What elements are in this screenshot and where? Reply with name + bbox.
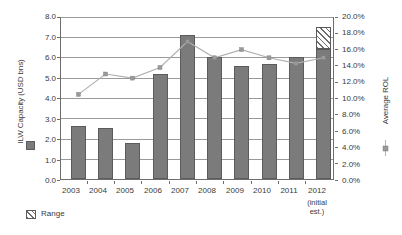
y-tick-left-7: 7.0 <box>28 33 56 42</box>
y-tick-left-8: 8.0 <box>28 12 56 21</box>
chart-container: ILW Capacity (USD bns) Average ROL 0.0 1… <box>0 0 402 235</box>
y-tick-right-4: 8.0% <box>342 110 376 119</box>
x-category-2009: 2009 <box>220 186 250 195</box>
y-tick-mark-right <box>335 163 338 164</box>
y-tick-mark-right <box>335 98 338 99</box>
x-tick-mark <box>251 181 252 184</box>
x-category-2003: 2003 <box>56 186 86 195</box>
x-tick-mark <box>114 181 115 184</box>
x-category-2012: 2012 <box>302 186 332 195</box>
x-category-2010: 2010 <box>247 186 277 195</box>
plot-area <box>60 17 334 180</box>
range-legend-swatch-icon <box>26 210 36 219</box>
x-category-2006: 2006 <box>138 186 168 195</box>
x-category-2004: 2004 <box>83 186 113 195</box>
x-category-2012-sublabel: (initialest.) <box>296 198 338 216</box>
x-category-2007: 2007 <box>165 186 195 195</box>
x-tick-mark <box>305 181 306 184</box>
x-tick-mark <box>278 181 279 184</box>
y-tick-left-1: 1.0 <box>28 156 56 165</box>
y-tick-right-0: 0.0% <box>342 176 376 185</box>
y-tick-right-8: 16.0% <box>342 45 376 54</box>
y-tick-right-6: 12.0% <box>342 77 376 86</box>
y-tick-mark-right <box>335 49 338 50</box>
x-tick-mark <box>141 181 142 184</box>
y-tick-left-6: 6.0 <box>28 53 56 62</box>
y-axis-left-title: ILW Capacity (USD bns) <box>16 38 25 166</box>
rol-legend-marker-icon <box>381 140 390 156</box>
y-tick-right-3: 6.0% <box>342 127 376 136</box>
y-tick-right-10: 20.0% <box>342 12 376 21</box>
y-tick-mark-right <box>335 131 338 132</box>
y-tick-mark-right <box>335 114 338 115</box>
y-tick-right-2: 4.0% <box>342 143 376 152</box>
y-tick-left-5: 5.0 <box>28 74 56 83</box>
x-tick-mark <box>87 181 88 184</box>
y-tick-mark-right <box>335 65 338 66</box>
x-category-2011: 2011 <box>274 186 304 195</box>
rol-line-series <box>61 17 335 180</box>
y-tick-mark-left <box>57 180 60 181</box>
x-category-2008: 2008 <box>192 186 222 195</box>
y-tick-mark-right <box>335 33 338 34</box>
x-tick-mark <box>196 181 197 184</box>
y-tick-left-3: 3.0 <box>28 115 56 124</box>
x-category-2005: 2005 <box>110 186 140 195</box>
y-tick-mark-right <box>335 147 338 148</box>
y-tick-right-9: 18.0% <box>342 28 376 37</box>
x-tick-mark <box>169 181 170 184</box>
y-tick-mark-right <box>335 180 338 181</box>
y-tick-left-2: 2.0 <box>28 135 56 144</box>
range-legend-label: Range <box>41 209 65 218</box>
y-tick-right-7: 14.0% <box>342 61 376 70</box>
y-tick-right-5: 10.0% <box>342 94 376 103</box>
y-tick-left-0: 0.0 <box>28 176 56 185</box>
x-tick-mark <box>223 181 224 184</box>
y-tick-mark-right <box>335 17 338 18</box>
y-tick-right-1: 2.0% <box>342 160 376 169</box>
y-tick-left-4: 4.0 <box>28 94 56 103</box>
y-tick-mark-right <box>335 82 338 83</box>
